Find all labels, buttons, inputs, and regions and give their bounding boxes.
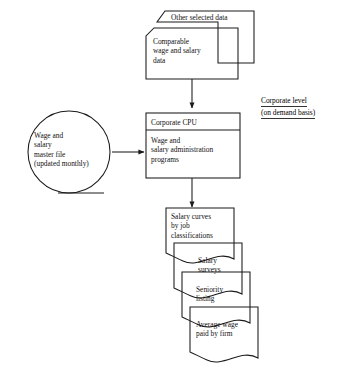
label-comparable-wage-salary-data: Comparable wage and salary data — [153, 37, 201, 65]
annotation-corporate-level: Corporate level (on demand basis) — [261, 96, 315, 119]
label-seniority-listing: Seniority listing — [196, 285, 223, 304]
label-other-selected-data: Other selected data — [171, 13, 228, 22]
annotation-line-2: (on demand basis) — [261, 108, 315, 119]
label-corporate-cpu-body: Wage and salary administration programs — [151, 136, 213, 164]
label-salary-surveys: Salary surveys — [198, 256, 221, 275]
annotation-line-1: Corporate level — [261, 96, 307, 107]
label-average-wage-paid: Average wage paid by firm — [196, 320, 238, 339]
label-wage-salary-master-file: Wage and salary master file (updated mon… — [34, 131, 89, 169]
label-salary-curves: Salary curves by job classifications — [171, 212, 213, 240]
label-corporate-cpu-header: Corporate CPU — [151, 118, 197, 127]
diagram-canvas: Other selected data Comparable wage and … — [0, 0, 350, 385]
